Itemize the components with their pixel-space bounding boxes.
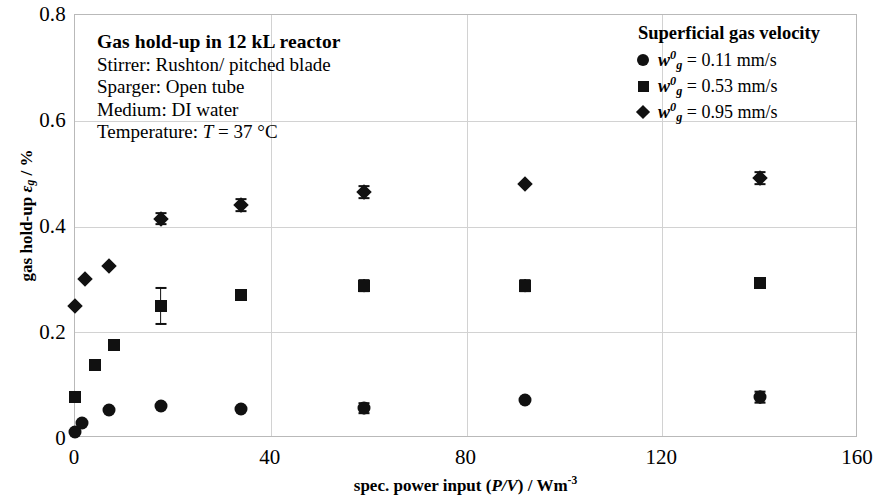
data-point-circle (103, 403, 116, 416)
x-axis-title-italic: P/V (491, 476, 517, 495)
data-point-circle (754, 391, 767, 404)
data-point-diamond (77, 272, 93, 288)
x-axis-title-pre: spec. power input ( (354, 476, 492, 495)
y-axis-title: gas hold-up εg / % (17, 86, 36, 346)
y-axis-title-subscript: g (24, 180, 37, 186)
x-axis-title-mid: ) / Wm (518, 476, 568, 495)
data-point-square (155, 300, 167, 312)
data-point-square (69, 391, 81, 403)
data-points-layer (75, 15, 856, 436)
data-point-circle (235, 403, 248, 416)
data-point-diamond (67, 298, 83, 314)
x-tick-160: 160 (817, 447, 873, 468)
data-point-circle (357, 402, 370, 415)
x-tick-0: 0 (34, 447, 114, 468)
data-point-circle (76, 417, 89, 430)
data-point-circle (519, 393, 532, 406)
x-tick-120: 120 (621, 447, 701, 468)
y-tick-0.8: 0.8 (4, 4, 66, 25)
data-point-square (108, 339, 120, 351)
data-point-circle (154, 400, 167, 413)
data-point-square (235, 289, 247, 301)
x-tick-80: 80 (426, 447, 506, 468)
data-point-square (89, 359, 101, 371)
x-axis-tick-labels: 0 40 80 120 160 (74, 447, 857, 473)
x-axis-title: spec. power input (P/V) / Wm-3 (74, 476, 857, 495)
data-point-square (754, 277, 766, 289)
data-point-diamond (101, 258, 117, 274)
y-tick-0: 0 (4, 428, 66, 449)
y-axis-title-pre: gas hold-up (17, 193, 36, 282)
y-axis-title-epsilon: ε (17, 186, 36, 193)
data-point-diamond (517, 176, 533, 192)
x-axis-title-exponent: -3 (568, 474, 578, 487)
data-point-square (519, 280, 531, 292)
gas-holdup-scatter-chart: 0.8 0.6 0.4 0.2 0 Gas hold-up in 12 kL r… (0, 0, 873, 500)
data-point-square (358, 280, 370, 292)
x-tick-40: 40 (230, 447, 310, 468)
plot-area: Gas hold-up in 12 kL reactor Stirrer: Ru… (74, 14, 857, 437)
y-axis-title-post: / % (17, 150, 36, 180)
